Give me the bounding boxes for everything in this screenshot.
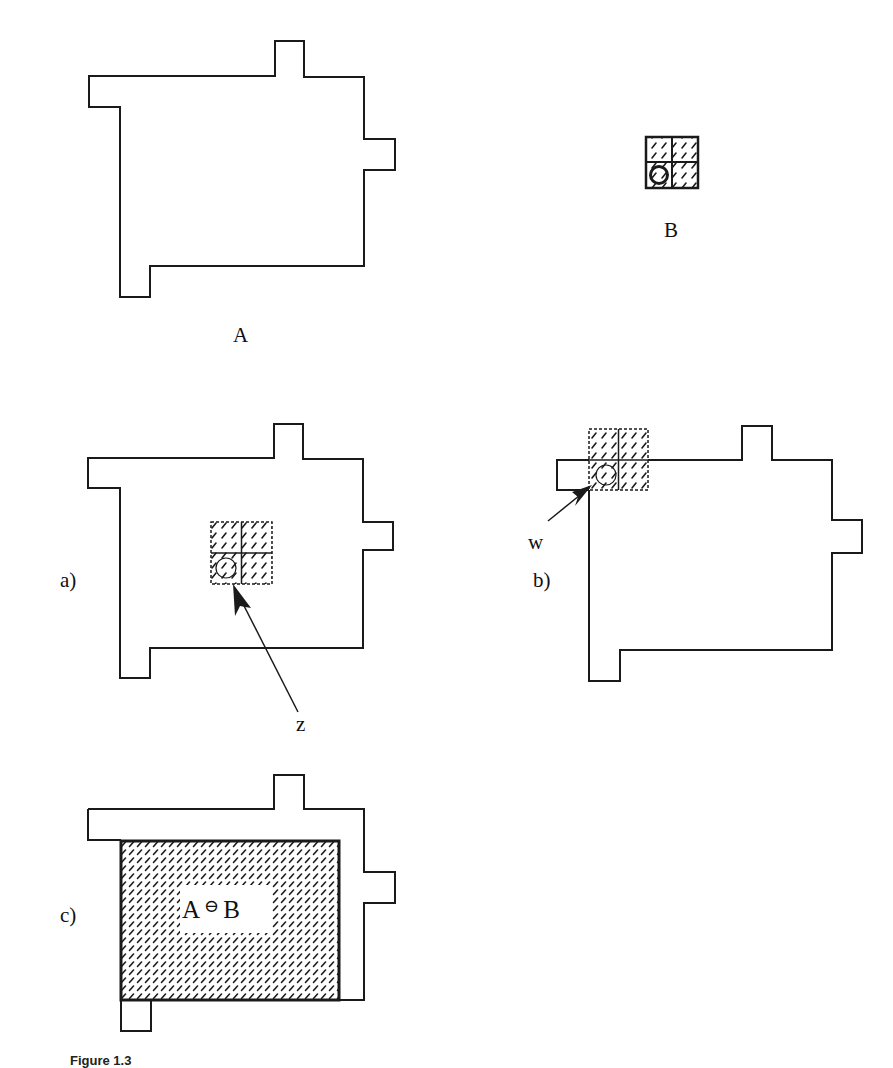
panel-a-label: a) [60,570,76,591]
point-w-label: w [528,532,543,553]
erosion-operator-icon: ⊖ [204,896,219,916]
panel-c-label: c) [60,905,76,926]
erosion-expression: A⊖B [182,896,240,924]
panel-b-structuring-element [589,429,648,490]
expression-right-operand: B [223,896,240,923]
expression-left-operand: A [182,896,200,923]
point-z-label: z [296,714,305,735]
figure-caption: Figure 1.3 [70,1053,131,1068]
panel-a-structuring-element [211,522,272,584]
structuring-element-b [646,137,698,188]
origin-marker [651,167,668,184]
panel-b-label: b) [533,570,551,591]
set-a-label: A [233,325,248,346]
set-b-label: B [664,220,678,241]
set-a-shape [89,41,395,297]
